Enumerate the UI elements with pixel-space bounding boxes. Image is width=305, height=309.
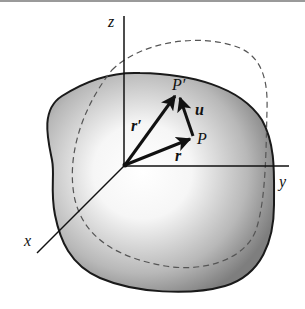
point-p-label: P — [196, 130, 207, 147]
vector-u-label: u — [195, 101, 204, 118]
y-axis-label: y — [277, 173, 287, 191]
x-axis-label: x — [23, 232, 31, 249]
vector-r-label: r — [175, 147, 182, 164]
deformation-diagram: z y x P′ P r′ r u — [0, 0, 305, 309]
point-p-prime-label: P′ — [171, 76, 186, 93]
origin-point — [123, 163, 128, 168]
vector-r-prime-label: r′ — [131, 117, 142, 134]
body-shape — [47, 73, 274, 292]
z-axis-label: z — [107, 13, 115, 30]
